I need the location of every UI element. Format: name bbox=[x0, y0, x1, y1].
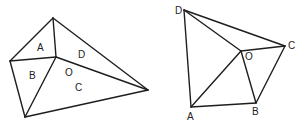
left-quadrilateral-figure: ABDOC bbox=[10, 18, 148, 117]
label-b: B bbox=[252, 106, 259, 117]
edge-D-O bbox=[184, 10, 241, 51]
label-b: B bbox=[29, 70, 36, 81]
edge-left-inner bbox=[10, 57, 56, 61]
label-a: A bbox=[37, 42, 44, 53]
label-c: C bbox=[75, 82, 82, 93]
label-o: O bbox=[245, 51, 253, 62]
edge-top-inner bbox=[53, 18, 56, 57]
edge-D-A bbox=[184, 10, 191, 107]
label-o: O bbox=[65, 67, 73, 78]
label-a: A bbox=[187, 111, 194, 122]
edge-O-A bbox=[191, 51, 241, 107]
edge-top-left bbox=[10, 18, 53, 61]
right-quadrilateral-figure: DCOAB bbox=[175, 5, 295, 122]
label-d: D bbox=[78, 49, 85, 60]
edge-A-B bbox=[191, 103, 256, 107]
edge-D-C bbox=[184, 10, 285, 46]
diagram-canvas: ABDOC DCOAB bbox=[0, 0, 300, 127]
label-d: D bbox=[175, 5, 182, 16]
edge-inner-bottom bbox=[25, 57, 56, 117]
edge-bottom-right bbox=[25, 90, 148, 117]
edge-left-bottom bbox=[10, 61, 25, 117]
edge-top-right bbox=[53, 18, 148, 90]
edge-B-C bbox=[256, 46, 285, 103]
label-c: C bbox=[288, 40, 295, 51]
